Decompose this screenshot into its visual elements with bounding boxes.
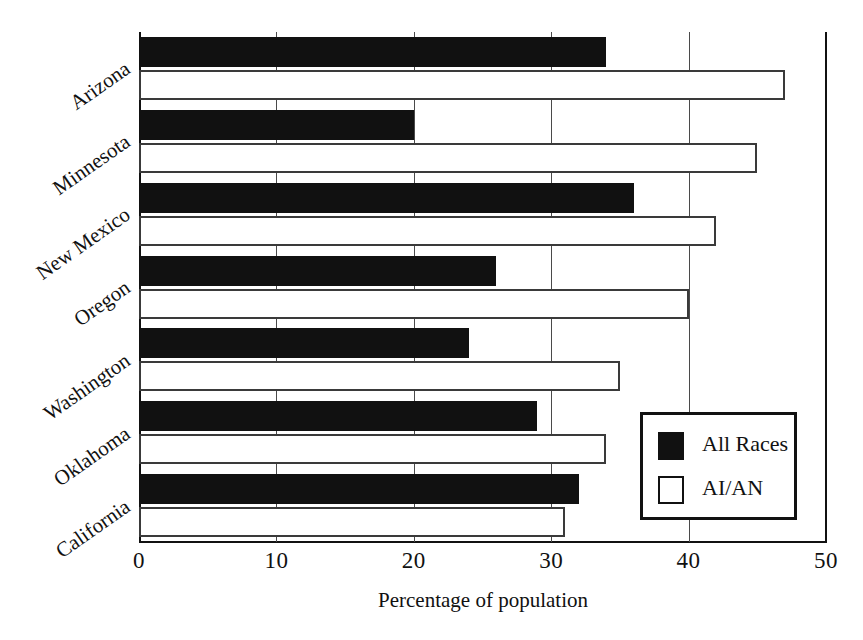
gridline-10: [276, 32, 277, 542]
x-axis-title: Percentage of population: [139, 588, 827, 613]
legend-label-ai-an: AI/AN: [702, 475, 763, 501]
gridline-30: [551, 32, 552, 542]
bar-new-mexico-ai-an: [139, 216, 716, 246]
bar-minnesota-all-races: [139, 110, 414, 140]
bar-washington-ai-an: [139, 361, 620, 391]
bar-arizona-all-races: [139, 37, 606, 67]
bar-minnesota-ai-an: [139, 143, 757, 173]
x-tick-label-50: 50: [796, 548, 856, 574]
x-tick-label-10: 10: [246, 548, 306, 574]
y-axis-line: [139, 32, 141, 543]
bar-chart: 01020304050 ArizonaMinnesotaNew MexicoOr…: [0, 0, 863, 640]
chart-legend: All Races AI/AN: [640, 412, 797, 520]
bar-oklahoma-all-races: [139, 401, 537, 431]
x-axis-line: [139, 541, 827, 543]
bar-oregon-ai-an: [139, 289, 689, 319]
gridline-20: [414, 32, 415, 542]
x-tick-label-30: 30: [521, 548, 581, 574]
legend-swatch-ai-an: [658, 476, 684, 504]
x-tick-label-20: 20: [384, 548, 444, 574]
bar-oregon-all-races: [139, 256, 496, 286]
bar-washington-all-races: [139, 328, 469, 358]
bar-california-all-races: [139, 474, 579, 504]
x-tick-label-0: 0: [109, 548, 169, 574]
bar-arizona-ai-an: [139, 70, 785, 100]
bar-california-ai-an: [139, 507, 565, 537]
legend-swatch-all-races: [658, 432, 684, 460]
bar-new-mexico-all-races: [139, 183, 634, 213]
bar-oklahoma-ai-an: [139, 434, 606, 464]
right-axis-line: [825, 32, 827, 543]
x-tick-label-40: 40: [659, 548, 719, 574]
legend-label-all-races: All Races: [702, 431, 788, 457]
